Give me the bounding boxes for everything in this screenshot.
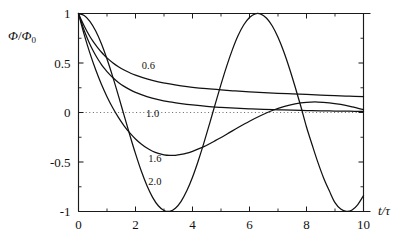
x-tick-label: 8 — [303, 217, 310, 232]
curve-label: 1.0 — [146, 108, 159, 119]
x-axis-title: t/τ — [378, 203, 391, 218]
x-tick-label: 2 — [132, 217, 139, 232]
x-axis-top-ticks — [79, 14, 364, 19]
y-tick-label: 1 — [64, 6, 71, 21]
x-tick-label: 6 — [246, 217, 253, 232]
y-tick-label: 0 — [64, 105, 71, 120]
y-axis-ticks — [79, 14, 84, 212]
curve-2-0 — [79, 13, 364, 211]
y-tick-label: -0.5 — [50, 155, 71, 170]
y-tick-label: 0.5 — [54, 56, 70, 71]
x-axis-ticks — [79, 207, 364, 212]
y-axis-tick-labels: -1-0.500.51 — [50, 6, 71, 219]
x-tick-label: 0 — [75, 217, 82, 232]
y-axis-right-ticks — [359, 14, 364, 212]
data-curves — [79, 13, 364, 211]
y-tick-label: -1 — [60, 204, 71, 219]
chart-canvas: 0246810 -1-0.500.51 0.61.01.62.0 Φ/Φ0 t/… — [0, 0, 411, 240]
curve-annotations: 0.61.01.62.0 — [142, 60, 162, 186]
curve-label: 1.6 — [148, 153, 161, 164]
curve-label: 2.0 — [148, 176, 161, 187]
y-axis-title: Φ/Φ0 — [8, 28, 36, 45]
plot-figure: 0246810 -1-0.500.51 0.61.01.62.0 Φ/Φ0 t/… — [0, 0, 411, 240]
x-tick-label: 10 — [357, 217, 370, 232]
curve-label: 0.6 — [142, 60, 155, 71]
curve-1-0 — [79, 14, 364, 112]
x-tick-label: 4 — [189, 217, 196, 232]
x-axis-tick-labels: 0246810 — [75, 217, 370, 232]
